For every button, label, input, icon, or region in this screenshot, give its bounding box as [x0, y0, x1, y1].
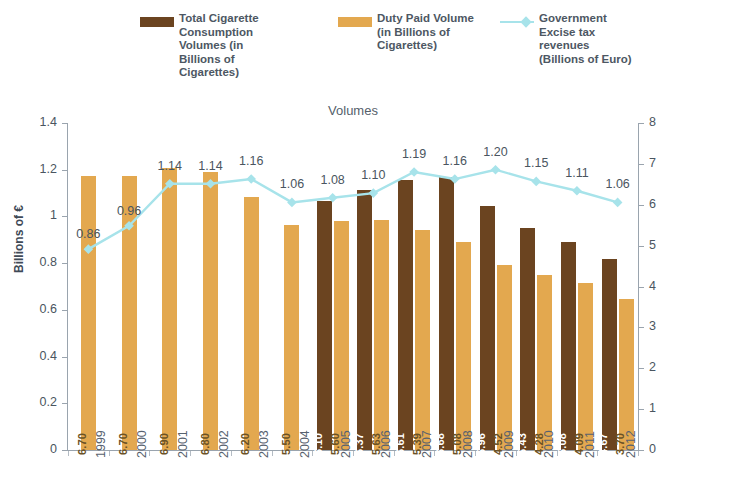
line-marker [531, 177, 541, 187]
x-axis-label: 2011 [583, 431, 597, 458]
left-tick-label: 0 [50, 442, 57, 456]
legend-label-total-consumption: Total Cigarette Consumption Volumes (in … [179, 12, 259, 80]
line-value-label: 1.11 [565, 166, 588, 180]
left-tick-label: 1 [50, 208, 57, 222]
legend-item-excise-revenue: Government Excise tax revenues (Billions… [500, 12, 660, 66]
x-axis-label: 2010 [542, 430, 556, 458]
line-marker [84, 244, 94, 254]
left-tick [62, 403, 67, 404]
x-tick [109, 451, 110, 456]
left-tick [62, 216, 67, 217]
left-tick-label: 0.6 [40, 302, 57, 316]
line-value-label: 1.06 [605, 177, 629, 191]
legend-label-excise-revenue: Government Excise tax revenues (Billions… [539, 12, 632, 66]
x-tick [312, 451, 313, 456]
x-tick [353, 451, 354, 456]
right-tick-label: 3 [649, 319, 656, 333]
legend-item-total-consumption: Total Cigarette Consumption Volumes (in … [140, 12, 290, 80]
line-value-label: 0.86 [76, 227, 100, 241]
x-tick [638, 451, 639, 456]
x-tick [597, 451, 598, 456]
line-swatch-icon [500, 17, 534, 27]
right-tick [639, 205, 644, 206]
x-axis-label: 2005 [339, 430, 353, 458]
bar-swatch-icon [338, 17, 372, 27]
x-axis-label: 2002 [217, 430, 231, 458]
left-tick [62, 123, 67, 124]
right-tick-label: 7 [649, 156, 656, 170]
line-marker [613, 198, 623, 208]
line-marker [246, 174, 256, 184]
right-tick-label: 5 [649, 238, 656, 252]
left-tick-label: 1.4 [40, 115, 57, 129]
left-tick-label: 0.2 [40, 395, 57, 409]
left-tick [62, 170, 67, 171]
line-value-label: 1.08 [320, 173, 344, 187]
line-marker [287, 198, 297, 208]
line-marker [409, 167, 419, 177]
left-tick [62, 450, 67, 451]
line-value-label: 1.14 [158, 159, 182, 173]
x-axis-label: 2012 [624, 430, 638, 458]
line-value-label: 1.06 [280, 177, 304, 191]
x-tick [149, 451, 150, 456]
line-value-label: 1.16 [239, 154, 263, 168]
chart-legend: Total Cigarette Consumption Volumes (in … [140, 6, 660, 102]
x-axis-label: 2000 [135, 430, 149, 458]
right-tick-label: 0 [649, 442, 656, 456]
right-tick [639, 164, 644, 165]
x-axis-label: 2006 [379, 430, 393, 458]
right-tick [639, 409, 644, 410]
right-tick-label: 4 [649, 279, 656, 293]
plot-area: Volumes 00.20.40.60.811.21.4 012345678 6… [68, 123, 638, 450]
left-tick [62, 263, 67, 264]
left-tick-label: 0.4 [40, 349, 57, 363]
line-value-label: 1.15 [524, 156, 548, 170]
x-axis-label: 2008 [461, 430, 475, 458]
line-marker [369, 188, 379, 198]
right-tick [639, 123, 644, 124]
x-tick [68, 451, 69, 456]
x-tick [434, 451, 435, 456]
x-tick [475, 451, 476, 456]
right-tick-label: 2 [649, 360, 656, 374]
left-tick-label: 1.2 [40, 162, 57, 176]
chart-container: Total Cigarette Consumption Volumes (in … [0, 0, 742, 495]
x-axis-label: 2004 [298, 430, 312, 458]
left-tick [62, 357, 67, 358]
x-axis-label: 2009 [502, 430, 516, 458]
right-tick-label: 1 [649, 401, 656, 415]
x-axis-label: 2003 [257, 430, 271, 458]
line-value-label: 1.10 [361, 168, 385, 182]
legend-item-duty-paid: Duty Paid Volume (in Billions of Cigaret… [338, 12, 488, 53]
line-marker [572, 186, 582, 196]
right-tick [639, 327, 644, 328]
bar-swatch-icon [140, 17, 174, 27]
x-axis-label: 2001 [176, 430, 190, 458]
x-tick [516, 451, 517, 456]
chart-title: Volumes [68, 103, 638, 118]
left-tick-label: 0.8 [40, 255, 57, 269]
left-axis-title: Billions of € [12, 184, 26, 294]
x-axis-label: 2007 [420, 430, 434, 458]
x-tick [231, 451, 232, 456]
line-value-label: 1.19 [402, 147, 426, 161]
legend-label-duty-paid: Duty Paid Volume (in Billions of Cigaret… [377, 12, 474, 53]
right-tick [639, 287, 644, 288]
line-marker [491, 165, 501, 175]
right-tick [639, 368, 644, 369]
x-axis-label: 1999 [94, 430, 108, 458]
right-tick [639, 246, 644, 247]
right-tick-label: 8 [649, 115, 656, 129]
x-tick [272, 451, 273, 456]
line-series-layer [68, 123, 638, 450]
left-tick [62, 310, 67, 311]
x-tick [190, 451, 191, 456]
line-value-label: 1.16 [443, 154, 467, 168]
line-marker [328, 193, 338, 203]
x-tick [394, 451, 395, 456]
x-tick [557, 451, 558, 456]
right-tick-label: 6 [649, 197, 656, 211]
line-marker [206, 179, 216, 189]
right-tick [639, 450, 644, 451]
